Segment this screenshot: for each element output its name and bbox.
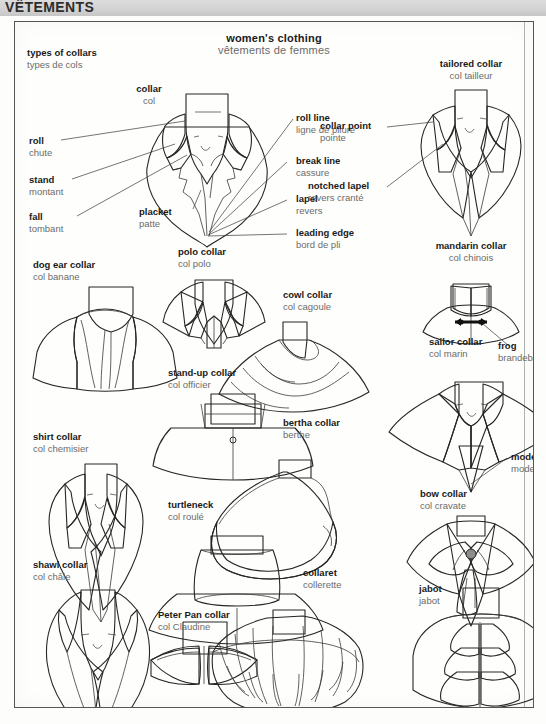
callout-fall-en: fall bbox=[29, 211, 63, 223]
callout-notched-lapel: notched lapel revers cranté bbox=[308, 180, 369, 204]
label-bertha-collar: bertha collar berthe bbox=[283, 417, 340, 441]
label-sailor-collar-fr: col marin bbox=[429, 348, 482, 360]
callout-collar-point-en: collar point bbox=[320, 120, 371, 132]
callout-break-line: break line cassure bbox=[296, 155, 340, 179]
callout-modesty: modesty modestie bbox=[511, 451, 534, 475]
bertha-collar-figure bbox=[212, 460, 337, 579]
label-shirt-collar-en: shirt collar bbox=[33, 431, 88, 443]
label-collaret-fr: collerette bbox=[303, 579, 342, 591]
label-mandarin-collar-fr: col chinois bbox=[413, 252, 529, 264]
callout-break-line-en: break line bbox=[296, 155, 340, 167]
callout-stand-fr: montant bbox=[29, 186, 63, 198]
label-sailor-collar: sailor collar col marin bbox=[429, 336, 482, 360]
label-polo-collar-en: polo collar bbox=[178, 246, 226, 258]
callout-notched-lapel-fr: revers cranté bbox=[308, 192, 369, 204]
group-title: types of collars types de cols bbox=[27, 47, 97, 71]
callout-collar-point: collar point pointe bbox=[320, 120, 371, 144]
polo-collar-figure bbox=[163, 280, 265, 348]
label-bow-collar: bow collar col cravate bbox=[420, 488, 467, 512]
label-bow-collar-fr: col cravate bbox=[420, 500, 467, 512]
callout-modesty-fr: modestie bbox=[511, 463, 534, 475]
callout-stand: stand montant bbox=[29, 174, 63, 198]
shirt-collar-figure bbox=[49, 464, 143, 622]
callout-placket-fr: patte bbox=[139, 218, 172, 230]
callout-lapel-fr: revers bbox=[296, 205, 322, 217]
sailor-collar-figure bbox=[389, 382, 533, 492]
callout-notched-lapel-en: notched lapel bbox=[308, 180, 369, 192]
label-shirt-collar: shirt collar col chemisier bbox=[33, 431, 88, 455]
label-bow-collar-en: bow collar bbox=[420, 488, 467, 500]
label-cowl-collar-fr: col cagoule bbox=[283, 301, 332, 313]
label-tailored-collar: tailored collar col tailleur bbox=[411, 58, 531, 82]
label-shawl-collar: shawl collar col châle bbox=[33, 559, 87, 583]
callout-frog: frog brandebourg bbox=[498, 340, 534, 364]
callout-placket: placket patte bbox=[139, 206, 172, 230]
callout-collar-en: collar bbox=[119, 83, 179, 95]
label-bertha-collar-en: bertha collar bbox=[283, 417, 340, 429]
label-shirt-collar-fr: col chemisier bbox=[33, 443, 88, 455]
section-header: VÊTEMENTS bbox=[5, 0, 94, 15]
dog-ear-collar-figure bbox=[33, 287, 177, 391]
label-shawl-collar-fr: col châle bbox=[33, 571, 87, 583]
main-collar-leaders bbox=[61, 112, 293, 236]
label-bertha-collar-fr: berthe bbox=[283, 429, 340, 441]
callout-leading-edge: leading edge bord de pli bbox=[296, 227, 354, 251]
label-polo-collar: polo collar col polo bbox=[178, 246, 226, 270]
label-stand-up-collar-fr: col officier bbox=[168, 379, 236, 391]
callout-stand-en: stand bbox=[29, 174, 63, 186]
callout-fall-fr: tombant bbox=[29, 223, 63, 235]
label-cowl-collar: cowl collar col cagoule bbox=[283, 289, 332, 313]
label-peter-pan-collar: Peter Pan collar col Claudine bbox=[158, 609, 230, 633]
label-dog-ear-collar-en: dog ear collar bbox=[33, 259, 95, 271]
label-stand-up-collar-en: stand-up collar bbox=[168, 367, 236, 379]
label-tailored-collar-fr: col tailleur bbox=[411, 70, 531, 82]
callout-modesty-en: modesty bbox=[511, 451, 534, 463]
plate-title-en: women's clothing bbox=[15, 32, 533, 44]
label-jabot: jabot jabot bbox=[419, 583, 442, 607]
label-jabot-fr: jabot bbox=[419, 595, 442, 607]
label-jabot-en: jabot bbox=[419, 583, 442, 595]
label-peter-pan-collar-fr: col Claudine bbox=[158, 621, 230, 633]
tailored-collar-figure bbox=[387, 90, 521, 236]
callout-leading-edge-en: leading edge bbox=[296, 227, 354, 239]
label-mandarin-collar: mandarin collar col chinois bbox=[413, 240, 529, 264]
callout-frog-en: frog bbox=[498, 340, 534, 352]
callout-collar: collar col bbox=[119, 83, 179, 107]
cowl-collar-figure bbox=[219, 322, 369, 412]
callout-break-line-fr: cassure bbox=[296, 167, 340, 179]
bow-collar-figure bbox=[407, 516, 533, 626]
label-cowl-collar-en: cowl collar bbox=[283, 289, 332, 301]
illustration-plate: women's clothing vêtements de femmes typ… bbox=[14, 21, 534, 708]
label-mandarin-collar-en: mandarin collar bbox=[413, 240, 529, 252]
callout-roll-en: roll bbox=[29, 135, 52, 147]
callout-collar-point-fr: pointe bbox=[320, 132, 371, 144]
callout-frog-fr: brandebourg bbox=[498, 352, 534, 364]
shawl-collar-figure bbox=[47, 590, 150, 707]
label-collaret-en: collaret bbox=[303, 567, 342, 579]
label-sailor-collar-en: sailor collar bbox=[429, 336, 482, 348]
callout-placket-en: placket bbox=[139, 206, 172, 218]
label-tailored-collar-en: tailored collar bbox=[411, 58, 531, 70]
group-title-en: types of collars bbox=[27, 47, 97, 59]
label-dog-ear-collar-fr: col banane bbox=[33, 271, 95, 283]
label-turtleneck-fr: col roulé bbox=[168, 511, 213, 523]
collaret-figure bbox=[212, 610, 363, 707]
callout-collar-fr: col bbox=[119, 95, 179, 107]
collar-illustrations bbox=[15, 22, 533, 707]
callout-roll-fr: chute bbox=[29, 147, 52, 159]
callout-leading-edge-fr: bord de pli bbox=[296, 239, 354, 251]
label-dog-ear-collar: dog ear collar col banane bbox=[33, 259, 95, 283]
group-title-fr: types de cols bbox=[27, 59, 97, 71]
label-peter-pan-collar-en: Peter Pan collar bbox=[158, 609, 230, 621]
label-shawl-collar-en: shawl collar bbox=[33, 559, 87, 571]
label-polo-collar-fr: col polo bbox=[178, 258, 226, 270]
label-turtleneck: turtleneck col roulé bbox=[168, 499, 213, 523]
callout-fall: fall tombant bbox=[29, 211, 63, 235]
label-stand-up-collar: stand-up collar col officier bbox=[168, 367, 236, 391]
label-collaret: collaret collerette bbox=[303, 567, 342, 591]
label-turtleneck-en: turtleneck bbox=[168, 499, 213, 511]
callout-roll: roll chute bbox=[29, 135, 52, 159]
